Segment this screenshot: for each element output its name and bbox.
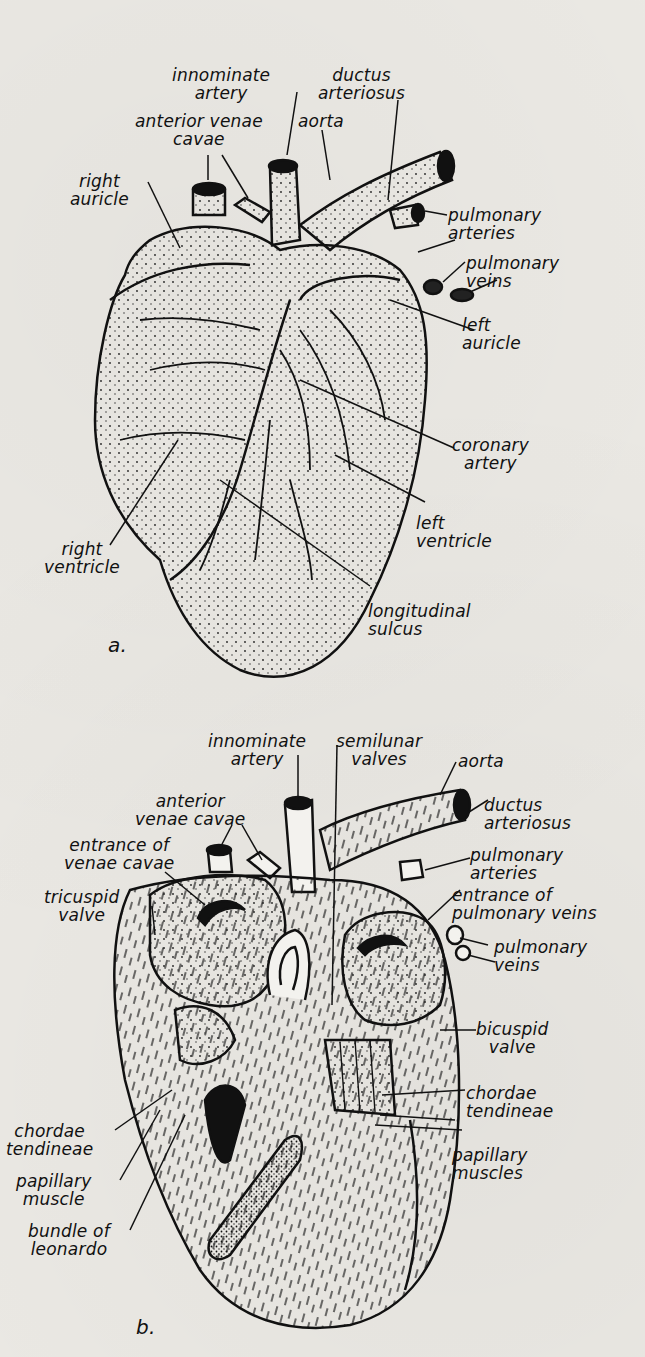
label-ductus-arteriosus-b: ductus arteriosus <box>484 796 571 832</box>
label-longitudinal-sulcus: longitudinal sulcus <box>368 602 471 638</box>
label-chordae-tendineae-right: chordae tendineae <box>466 1084 553 1120</box>
label-chordae-tendineae-left: chordae tendineae <box>6 1122 93 1158</box>
label-innominate-artery-a: innominate artery <box>172 66 270 102</box>
panel-label-a: a. <box>108 636 127 654</box>
label-pulmonary-arteries-b: pulmonary arteries <box>470 846 563 882</box>
label-tricuspid-valve: tricuspid valve <box>44 888 119 924</box>
label-left-auricle: left auricle <box>462 316 521 352</box>
label-semilunar-valves: semilunar valves <box>336 732 422 768</box>
label-papillary-muscle: papillary muscle <box>16 1172 91 1208</box>
label-right-ventricle-a: right ventricle <box>44 540 120 576</box>
figure-b <box>114 745 495 1328</box>
label-pulmonary-arteries-a: pulmonary arteries <box>448 206 541 242</box>
label-pulmonary-veins-a: pulmonary veins <box>466 254 559 290</box>
label-innominate-artery-b: innominate artery <box>208 732 306 768</box>
label-pulmonary-veins-b: pulmonary veins <box>494 938 587 974</box>
label-anterior-venae-cavae-b: anterior venae cavae <box>135 792 245 828</box>
label-entrance-venae-cavae: entrance of venae cavae <box>64 836 174 872</box>
figure-a <box>95 92 497 677</box>
label-coronary-artery: coronary artery <box>452 436 529 472</box>
label-bicuspid-valve: bicuspid valve <box>476 1020 548 1056</box>
label-left-ventricle-a: left ventricle <box>416 514 492 550</box>
panel-label-b: b. <box>136 1318 155 1336</box>
label-ductus-arteriosus-a: ductus arteriosus <box>318 66 405 102</box>
label-entrance-pulmonary-veins: entrance of pulmonary veins <box>452 886 597 922</box>
label-anterior-venae-cavae-a: anterior venae cavae <box>135 112 263 148</box>
label-aorta-a: aorta <box>298 112 344 130</box>
label-papillary-muscles: papillary muscles <box>452 1146 527 1182</box>
label-aorta-b: aorta <box>458 752 504 770</box>
label-bundle-of-leonardo: bundle of leonardo <box>28 1222 110 1258</box>
label-right-auricle: right auricle <box>70 172 129 208</box>
